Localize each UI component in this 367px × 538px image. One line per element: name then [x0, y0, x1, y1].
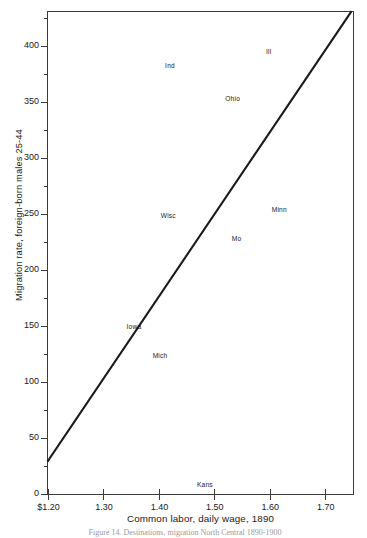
y-axis-minor-tick	[44, 354, 48, 355]
y-axis-tick: 100	[41, 382, 48, 383]
y-axis-tick-label: 100	[24, 376, 39, 386]
y-axis-tick-label: 400	[24, 40, 39, 50]
x-axis-tick: 1.60	[270, 494, 271, 500]
regression-line-svg	[48, 12, 353, 494]
x-axis-inner-tick	[214, 489, 215, 494]
y-axis-tick-label: 350	[24, 96, 39, 106]
x-axis-tick-label: 1.70	[317, 502, 335, 512]
figure-container: 050100150200250300350400$1.201.301.401.5…	[0, 0, 367, 538]
data-point-label-wisc: Wisc	[161, 211, 176, 218]
y-axis-minor-tick	[44, 130, 48, 131]
x-axis-tick: 1.40	[159, 494, 160, 500]
y-axis-minor-tick	[44, 466, 48, 467]
y-axis-tick: 300	[41, 158, 48, 159]
y-axis-label: Migration rate, foreign-born males 25-44	[14, 85, 24, 345]
y-axis-minor-tick	[44, 410, 48, 411]
figure-caption: Figure 14. Destinations, migration North…	[30, 528, 340, 538]
y-axis-tick-label: 150	[24, 320, 39, 330]
x-axis-tick-label: 1.60	[262, 502, 280, 512]
y-axis-tick: 400	[41, 46, 48, 47]
x-axis-inner-tick	[159, 489, 160, 494]
y-axis-minor-tick	[44, 74, 48, 75]
data-point-label-kans: Kans	[197, 480, 213, 487]
x-axis-tick-label: $1.20	[37, 502, 60, 512]
data-point-label-ill: Ill	[266, 48, 271, 55]
x-axis-tick-label: 1.50	[206, 502, 224, 512]
y-axis-minor-tick	[44, 242, 48, 243]
x-axis-tick: 1.70	[325, 494, 326, 500]
data-point-label-ohio: Ohio	[225, 95, 240, 102]
x-axis-tick-label: 1.30	[95, 502, 113, 512]
y-axis-tick: 50	[41, 438, 48, 439]
data-point-label-iowa: Iowa	[127, 322, 142, 329]
x-axis-inner-tick	[325, 489, 326, 494]
x-axis-tick-label: 1.40	[151, 502, 169, 512]
data-point-label-ind: Ind	[165, 61, 175, 68]
y-axis-tick-label: 200	[24, 264, 39, 274]
y-axis-minor-tick	[44, 186, 48, 187]
y-axis-tick: 150	[41, 326, 48, 327]
y-axis-tick-label: 300	[24, 152, 39, 162]
x-axis-tick: 1.50	[214, 494, 215, 500]
y-axis-tick: 350	[41, 102, 48, 103]
x-axis-inner-tick	[48, 489, 49, 494]
data-point-label-mich: Mich	[153, 352, 168, 359]
y-axis-tick-label: 50	[29, 432, 39, 442]
y-axis-tick-label: 250	[24, 208, 39, 218]
y-axis-tick: 200	[41, 270, 48, 271]
data-point-label-minn: Minn	[272, 206, 287, 213]
y-axis-minor-tick	[44, 18, 48, 19]
x-axis-tick: $1.20	[48, 494, 49, 500]
x-axis-tick: 1.30	[103, 494, 104, 500]
y-axis-tick: 0	[41, 494, 48, 495]
x-axis-label: Common labor, daily wage, 1890	[47, 513, 354, 524]
x-axis-inner-tick	[270, 489, 271, 494]
x-axis-inner-tick	[103, 489, 104, 494]
regression-line	[48, 12, 351, 461]
plot-area: 050100150200250300350400$1.201.301.401.5…	[47, 11, 354, 495]
y-axis-tick-label: 0	[34, 488, 39, 498]
y-axis-minor-tick	[44, 298, 48, 299]
data-point-label-mo: Mo	[232, 235, 242, 242]
y-axis-tick: 250	[41, 214, 48, 215]
